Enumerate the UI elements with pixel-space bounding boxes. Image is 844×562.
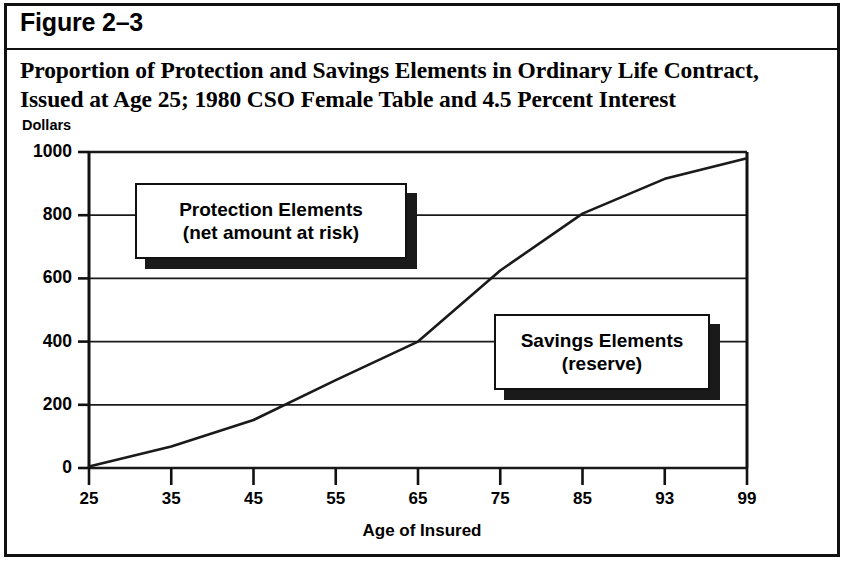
x-tick-label: 35 [144, 489, 198, 509]
y-tick-label: 600 [12, 267, 72, 288]
x-tick-label: 99 [720, 489, 774, 509]
x-axis-title: Age of Insured [0, 521, 844, 541]
y-tick-label: 0 [12, 457, 72, 478]
chart-svg [0, 0, 844, 562]
y-axis-ticks [78, 152, 89, 468]
y-tick-label: 1000 [12, 141, 72, 162]
y-tick-label: 200 [12, 394, 72, 415]
x-tick-label: 55 [309, 489, 363, 509]
x-tick-label: 65 [391, 489, 445, 509]
plot-area: 02004006008001000 253545556575859399 [0, 0, 844, 562]
callout-protection-face: Protection Elements (net amount at risk) [135, 183, 407, 259]
figure-container: Figure 2–3 Proportion of Protection and … [0, 0, 844, 562]
callout-protection-line-2: (net amount at risk) [183, 221, 359, 244]
x-axis-ticks [89, 468, 747, 485]
x-tick-label: 25 [62, 489, 116, 509]
x-tick-label: 93 [638, 489, 692, 509]
callout-savings-line-1: Savings Elements [521, 329, 684, 352]
callout-protection-elements[interactable]: Protection Elements (net amount at risk) [135, 183, 407, 259]
y-tick-label: 400 [12, 331, 72, 352]
x-tick-label: 75 [473, 489, 527, 509]
callout-savings-face: Savings Elements (reserve) [494, 314, 710, 390]
callout-savings-line-2: (reserve) [562, 352, 642, 375]
x-tick-label: 45 [227, 489, 281, 509]
y-tick-label: 800 [12, 204, 72, 225]
callout-savings-elements[interactable]: Savings Elements (reserve) [494, 314, 710, 390]
x-tick-label: 85 [556, 489, 610, 509]
callout-protection-line-1: Protection Elements [179, 198, 363, 221]
